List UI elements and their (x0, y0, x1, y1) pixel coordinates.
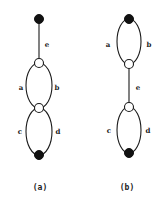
edge-loop-ab (26, 63, 52, 108)
edge-label-c: c (18, 127, 22, 136)
open-node-mid1 (35, 59, 44, 68)
edge-label-d: d (56, 127, 61, 136)
panel-a: e a b c d (a) (18, 15, 61, 192)
caption-a: (a) (33, 183, 47, 192)
edge-label-e: e (136, 83, 141, 92)
graph-figure: e a b c d (a) a b e c d (b) (0, 0, 162, 203)
edge-label-a: a (106, 40, 111, 49)
filled-node-bottom (125, 149, 134, 158)
filled-node-bottom (35, 151, 44, 160)
filled-node-top (125, 15, 134, 24)
edge-label-a: a (19, 83, 24, 92)
edge-loop-cd (26, 108, 52, 155)
edge-label-e: e (45, 40, 50, 49)
edge-label-d: d (146, 126, 151, 135)
edge-label-b: b (55, 83, 60, 92)
edge-label-b: b (147, 40, 152, 49)
open-node-mid2 (35, 104, 44, 113)
open-node-mid1 (125, 60, 134, 69)
filled-node-top (35, 15, 44, 24)
caption-b: (b) (120, 183, 134, 192)
edge-loop-ab (117, 19, 141, 64)
edge-label-c: c (107, 126, 111, 135)
panel-b: a b e c d (b) (106, 15, 152, 192)
edge-loop-cd (117, 107, 141, 153)
open-node-mid2 (125, 103, 134, 112)
